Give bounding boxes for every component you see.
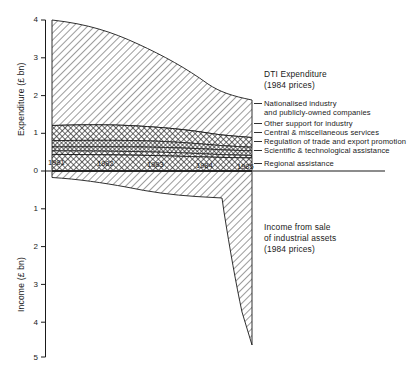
y-tick-label-3: 3	[24, 53, 38, 62]
legend-item-scientific-technological: Scientific & technological assistance	[264, 146, 390, 155]
band-nationalised-industry	[52, 20, 252, 138]
y-tick-label-minus-3: 3	[24, 280, 38, 289]
y-tick-label-2: 2	[24, 91, 38, 100]
legend-item-nationalised-industry-line1: Nationalised industry	[264, 99, 337, 108]
legend-item-central-misc-services: Central & miscellaneous services	[264, 128, 379, 137]
y-tick-label-0: 0	[24, 166, 38, 175]
y-tick-label-minus-1: 1	[24, 204, 38, 213]
chart-figure: Expenditure (£ bn) Income (£ bn) 4 3 2 1…	[0, 0, 411, 374]
x-tick-label-1985: 1985	[237, 162, 254, 171]
legend-title-line1: DTI Expenditure	[264, 69, 327, 80]
y-tick-label-minus-4: 4	[24, 318, 38, 327]
income-title-line1: Income from sale	[264, 222, 331, 233]
legend-item-regulation-trade-export: Regulation of trade and export promotion	[264, 137, 406, 146]
x-tick-label-1984: 1984	[196, 161, 213, 170]
x-tick-label-1981: 1981	[48, 158, 65, 167]
legend-title-line2: (1984 prices)	[264, 80, 315, 91]
y-tick-label-minus-2: 2	[24, 242, 38, 251]
legend-item-other-support: Other support for industry	[264, 119, 353, 128]
y-tick-label-4: 4	[24, 15, 38, 24]
legend-item-regional-assistance: Regional assistance	[264, 159, 334, 168]
y-axis-ticks-top	[41, 20, 46, 171]
income-title-line3: (1984 prices)	[264, 244, 315, 255]
x-tick-label-1982: 1982	[97, 159, 114, 168]
chart-canvas	[0, 0, 411, 374]
y-axis-ticks-bottom	[41, 209, 46, 357]
x-tick-label-1983: 1983	[147, 160, 164, 169]
legend-leader-lines	[254, 104, 262, 164]
y-tick-label-1: 1	[24, 128, 38, 137]
legend-item-nationalised-industry-line2: and publicly-owned companies	[264, 108, 371, 117]
income-title-line2: of industrial assets	[264, 233, 336, 244]
band-income-from-asset-sales	[52, 172, 252, 346]
y-tick-label-minus-5: 5	[24, 353, 38, 362]
